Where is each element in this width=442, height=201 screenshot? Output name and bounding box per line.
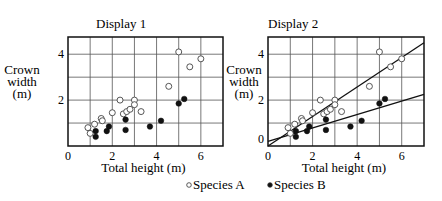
species-b-point <box>176 101 182 107</box>
species-a-point <box>117 97 123 103</box>
species-a-point <box>138 109 144 115</box>
species-a-point <box>285 125 291 131</box>
x-tick-label: 6 <box>198 149 204 163</box>
species-a-point <box>317 97 323 103</box>
species-b-point <box>147 124 153 130</box>
chart-title: Display 1 <box>96 16 146 31</box>
legend: Species ASpecies B <box>187 177 326 192</box>
species-b-point <box>293 134 299 140</box>
species-a-point <box>292 121 298 127</box>
species-a-point <box>109 110 115 116</box>
species-b-point <box>377 101 383 107</box>
species-b-point <box>93 134 99 140</box>
species-a-point <box>99 118 105 124</box>
species-b-point <box>293 128 299 134</box>
species-b-point <box>93 128 99 134</box>
species-a-point <box>366 83 372 89</box>
y-axis-label: (m) <box>13 86 32 101</box>
species-b-point <box>106 124 112 130</box>
legend-species-b-marker-icon <box>268 183 273 188</box>
x-axis-label: Total height (m) <box>101 160 185 175</box>
species-a-point <box>376 49 382 55</box>
species-a-point <box>85 125 91 131</box>
species-b-point <box>306 124 312 130</box>
display-1-panel: Display 1024624Total height (m)Crownwidt… <box>4 16 223 175</box>
species-a-point <box>300 118 306 124</box>
plot-frame <box>268 37 424 146</box>
x-tick-label: 0 <box>265 149 271 163</box>
species-a-point <box>131 102 137 108</box>
species-a-point <box>92 121 98 127</box>
y-tick-label: 2 <box>58 93 64 107</box>
display-2-panel: Display 20246024Total height (m)Crownwid… <box>226 16 424 175</box>
y-tick-label: 0 <box>258 132 264 146</box>
species-a-point <box>198 56 204 62</box>
legend-label: Species A <box>193 177 245 192</box>
y-axis-label: (m) <box>235 86 254 101</box>
x-tick-label: 0 <box>65 149 71 163</box>
chart-title: Display 2 <box>268 16 318 31</box>
x-tick-label: 6 <box>399 149 405 163</box>
plot-frame <box>68 37 223 146</box>
y-tick-label: 2 <box>258 93 264 107</box>
species-b-point <box>181 96 187 102</box>
legend-label: Species B <box>274 177 326 192</box>
species-b-point <box>382 96 388 102</box>
species-b-point <box>323 127 329 133</box>
species-a-point <box>287 130 293 136</box>
species-a-point <box>339 109 345 115</box>
species-a-point <box>176 49 182 55</box>
species-b-point <box>348 124 354 130</box>
legend-species-a-marker-icon <box>187 183 192 188</box>
species-a-point <box>166 83 172 89</box>
species-b-point <box>359 118 365 124</box>
species-b-point <box>123 127 129 133</box>
species-b-point <box>158 118 164 124</box>
y-tick-label: 4 <box>58 47 64 61</box>
species-a-point <box>332 102 338 108</box>
species-b-point <box>323 117 329 123</box>
y-tick-label: 4 <box>258 47 264 61</box>
chart-canvas: Display 1024624Total height (m)Crownwidt… <box>0 0 442 201</box>
x-axis-label: Total height (m) <box>302 160 386 175</box>
species-a-point <box>399 56 405 62</box>
species-a-point <box>310 110 316 116</box>
species-b-point <box>123 117 129 123</box>
species-a-point <box>388 64 394 70</box>
species-a-point <box>187 64 193 70</box>
species-a-point <box>87 130 93 136</box>
